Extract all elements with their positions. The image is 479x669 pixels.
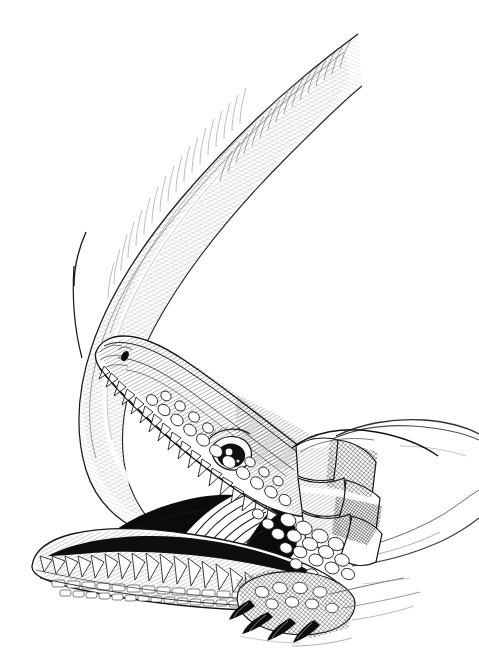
crocodile-illustration [0,0,479,669]
illustration-canvas: Crocodilian with open jaws and extended … [0,0,479,669]
